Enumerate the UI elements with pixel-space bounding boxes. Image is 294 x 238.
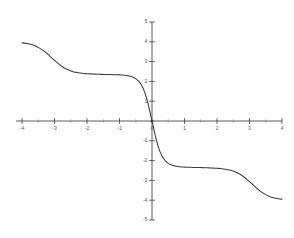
y-axis-tick-label: 4 [145, 38, 148, 44]
y-axis-tick-label: 2 [145, 78, 148, 84]
x-axis-tick-label: 1 [183, 125, 186, 131]
y-axis-tick-label: -5 [143, 216, 148, 222]
x-axis-tick-label: 2 [216, 125, 219, 131]
y-axis-tick-label: -2 [143, 157, 148, 163]
plot-canvas: -4-3-2-101234-5-4-3-2-112345 [0, 0, 294, 238]
x-axis-tick-label: -4 [20, 125, 25, 131]
x-axis-tick-label: 4 [281, 125, 284, 131]
x-axis-tick-label: -3 [52, 125, 57, 131]
graph-figure: -4-3-2-101234-5-4-3-2-112345 [0, 0, 294, 238]
x-axis-tick-label: -1 [117, 125, 122, 131]
y-axis-tick-label: 5 [145, 18, 148, 24]
x-axis-tick-label: -2 [85, 125, 90, 131]
origin-marker [151, 120, 154, 123]
y-axis-tick-label: -4 [143, 197, 148, 203]
y-axis-tick-label: 3 [145, 58, 148, 64]
x-axis-tick-label: 3 [248, 125, 251, 131]
y-axis-tick-label: -3 [143, 177, 148, 183]
y-axis-tick-label: -1 [143, 137, 148, 143]
